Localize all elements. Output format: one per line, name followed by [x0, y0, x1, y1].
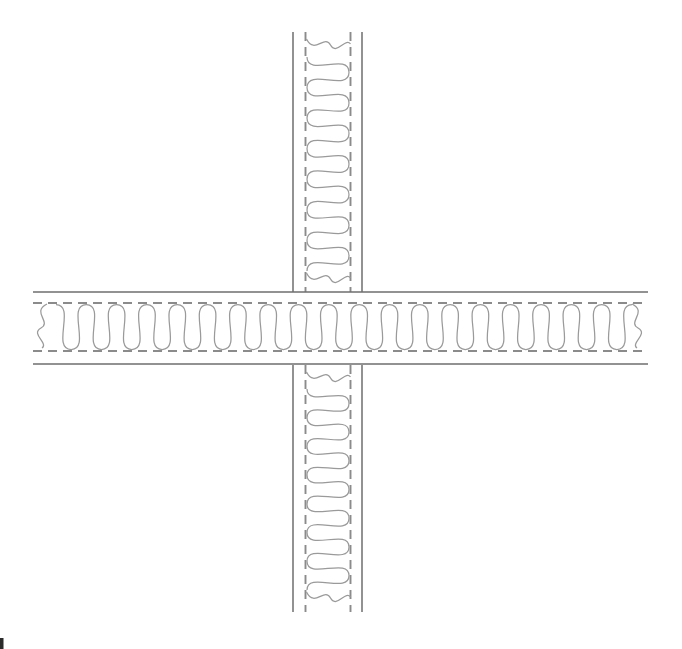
wall-intersection-section-drawing	[0, 0, 682, 649]
insulation-break-squiggle	[37, 304, 47, 348]
batt-insulation-hatch	[307, 389, 349, 590]
page-edge-print-artifact	[0, 638, 4, 649]
scanned-drawing-page	[0, 0, 682, 649]
batt-insulation-hatch	[307, 57, 349, 271]
horizontal-wall-section	[33, 292, 648, 364]
insulation-break-squiggle	[307, 592, 351, 602]
insulation-break-squiggle	[307, 372, 351, 382]
insulation-break-squiggle	[307, 273, 351, 283]
batt-insulation-hatch	[56, 305, 632, 350]
insulation-break-squiggle	[632, 304, 642, 348]
insulation-break-squiggle	[307, 39, 351, 49]
